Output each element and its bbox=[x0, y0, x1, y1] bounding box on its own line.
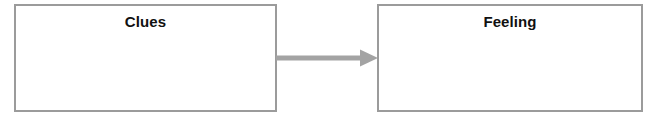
node-clues[interactable]: Clues bbox=[14, 4, 277, 112]
arrow-clues-to-feeling bbox=[274, 46, 382, 72]
node-feeling-label: Feeling bbox=[379, 13, 641, 31]
arrow-right-icon bbox=[274, 46, 382, 72]
node-clues-label: Clues bbox=[16, 13, 275, 31]
diagram-canvas: Clues Feeling bbox=[0, 0, 657, 120]
node-feeling[interactable]: Feeling bbox=[377, 4, 643, 112]
